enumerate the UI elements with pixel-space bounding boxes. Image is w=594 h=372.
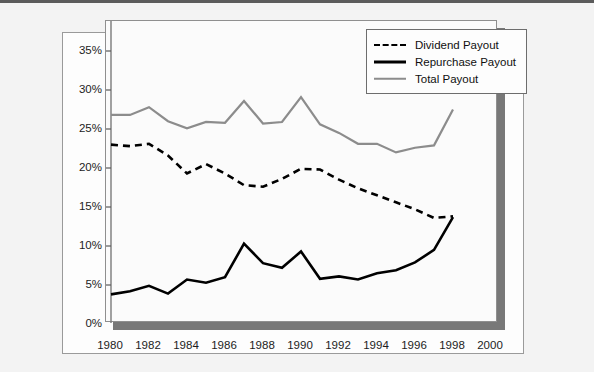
series-line-total-payout [111, 97, 453, 152]
legend-swatch-line [374, 44, 406, 46]
legend-item[interactable]: Dividend Payout [373, 36, 516, 53]
chart-legend: Dividend PayoutRepurchase PayoutTotal Pa… [366, 29, 527, 94]
x-axis-tick-label: 1984 [173, 339, 199, 351]
chart-screenshot: Dividend PayoutRepurchase PayoutTotal Pa… [0, 0, 594, 372]
legend-item-label: Total Payout [415, 73, 478, 85]
legend-item-label: Repurchase Payout [415, 56, 516, 68]
legend-item[interactable]: Repurchase Payout [373, 53, 516, 70]
x-axis-tick-label: 1980 [97, 339, 123, 351]
x-axis-tick-label: 1990 [287, 339, 313, 351]
x-axis-tick-label: 1998 [439, 339, 465, 351]
gray-line-icon [373, 72, 407, 86]
y-axis-tick-label: 35% [62, 44, 102, 56]
x-axis-tick-label: 1992 [325, 339, 351, 351]
x-axis-tick-label: 2000 [477, 339, 503, 351]
x-axis-tick-label: 1982 [135, 339, 161, 351]
x-axis-tick-label: 1986 [211, 339, 237, 351]
top-border-strip [0, 0, 594, 3]
series-line-repurchase-payout [111, 217, 453, 294]
y-axis-tick-label: 5% [62, 278, 102, 290]
legend-item[interactable]: Total Payout [373, 70, 516, 87]
y-axis-tick-label: 15% [62, 200, 102, 212]
y-axis-tick-label: 30% [62, 83, 102, 95]
legend-swatch-line [374, 60, 406, 63]
y-axis-tick-label: 10% [62, 239, 102, 251]
legend-swatch-line [374, 77, 406, 80]
legend-item-label: Dividend Payout [415, 39, 499, 51]
y-axis-tick-label: 25% [62, 122, 102, 134]
x-axis-tick-label: 1988 [249, 339, 275, 351]
solid-line-icon [373, 55, 407, 69]
y-axis-tick-label: 20% [62, 161, 102, 173]
x-axis-tick-label: 1996 [401, 339, 427, 351]
dashed-line-icon [373, 38, 407, 52]
x-axis-tick-label: 1994 [363, 339, 389, 351]
plot-area: Dividend PayoutRepurchase PayoutTotal Pa… [105, 20, 497, 322]
series-line-dividend-payout [111, 144, 453, 218]
y-axis-tick-label: 0% [62, 317, 102, 329]
